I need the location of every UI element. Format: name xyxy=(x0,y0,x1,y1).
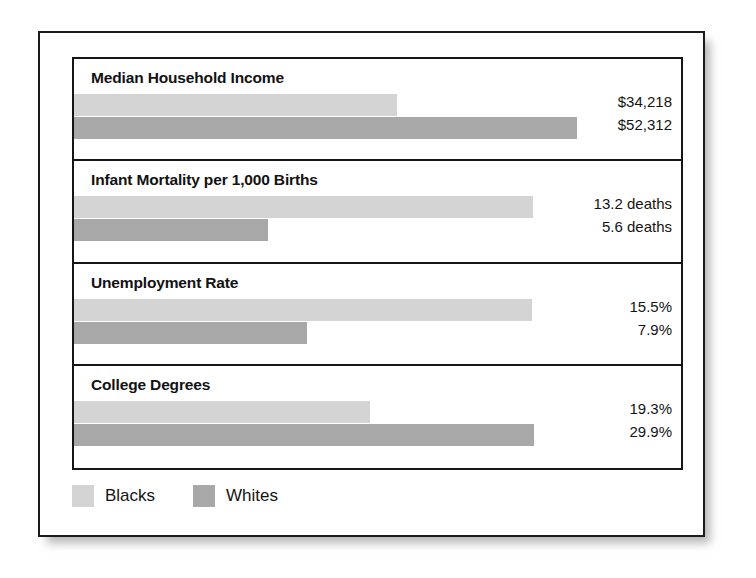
bar-whites xyxy=(74,322,307,344)
bar-line-blacks: 13.2 deaths xyxy=(74,196,681,218)
chart-row-unemployment-rate: Unemployment Rate 15.5% 7.9% xyxy=(74,264,681,366)
bar-blacks xyxy=(74,401,370,423)
bar-line-blacks: 15.5% xyxy=(74,299,681,321)
bar-line-whites: 5.6 deaths xyxy=(74,219,681,241)
chart-panel-group: Median Household Income $34,218 $52,312 … xyxy=(72,57,683,470)
bars-area: 15.5% 7.9% xyxy=(74,299,681,358)
bars-area: 19.3% 29.9% xyxy=(74,401,681,462)
bar-line-whites: 7.9% xyxy=(74,322,681,344)
poster-frame: Median Household Income $34,218 $52,312 … xyxy=(38,31,705,537)
legend-swatch-icon xyxy=(193,485,215,507)
bar-value-whites: 5.6 deaths xyxy=(602,218,672,235)
bar-value-whites: $52,312 xyxy=(618,116,672,133)
bar-value-blacks: 13.2 deaths xyxy=(594,195,672,212)
legend-swatch-icon xyxy=(72,485,94,507)
bar-value-blacks: 19.3% xyxy=(629,400,672,417)
chart-canvas: Median Household Income $34,218 $52,312 … xyxy=(0,0,756,578)
bar-whites xyxy=(74,219,268,241)
bar-blacks xyxy=(74,94,397,116)
bar-line-whites: 29.9% xyxy=(74,424,681,446)
bar-blacks xyxy=(74,299,532,321)
row-title: Unemployment Rate xyxy=(91,274,238,292)
bar-value-whites: 7.9% xyxy=(638,321,672,338)
chart-row-infant-mortality: Infant Mortality per 1,000 Births 13.2 d… xyxy=(74,161,681,263)
chart-legend: Blacks Whites xyxy=(72,485,316,507)
bar-value-blacks: $34,218 xyxy=(618,93,672,110)
bar-line-whites: $52,312 xyxy=(74,117,681,139)
legend-label: Whites xyxy=(226,486,278,506)
bar-whites xyxy=(74,424,534,446)
bar-value-whites: 29.9% xyxy=(629,423,672,440)
bars-area: 13.2 deaths 5.6 deaths xyxy=(74,196,681,255)
bar-line-blacks: 19.3% xyxy=(74,401,681,423)
bar-value-blacks: 15.5% xyxy=(629,298,672,315)
bars-area: $34,218 $52,312 xyxy=(74,94,681,153)
legend-item-blacks: Blacks xyxy=(72,485,155,507)
chart-row-median-household-income: Median Household Income $34,218 $52,312 xyxy=(74,59,681,161)
legend-label: Blacks xyxy=(105,486,155,506)
legend-item-whites: Whites xyxy=(193,485,278,507)
bar-line-blacks: $34,218 xyxy=(74,94,681,116)
chart-row-college-degrees: College Degrees 19.3% 29.9% xyxy=(74,366,681,468)
bar-blacks xyxy=(74,196,533,218)
row-title: Median Household Income xyxy=(91,69,284,87)
row-title: Infant Mortality per 1,000 Births xyxy=(91,171,318,189)
row-title: College Degrees xyxy=(91,376,210,394)
bar-whites xyxy=(74,117,577,139)
